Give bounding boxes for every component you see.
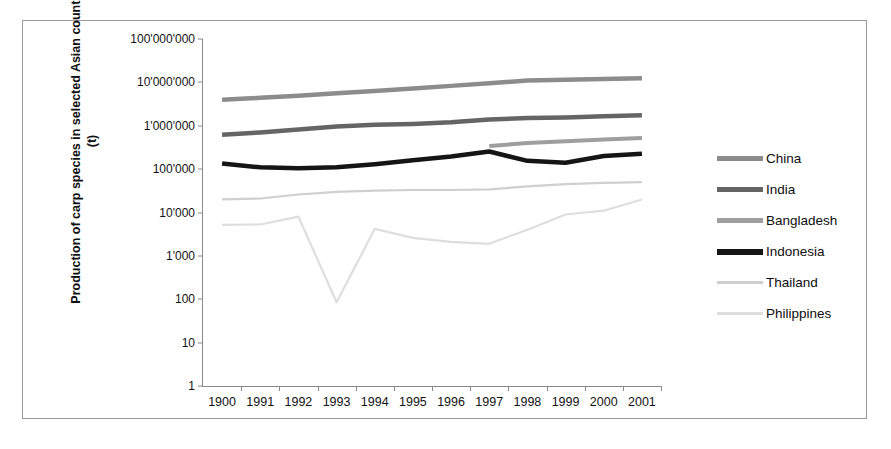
plot-area: 100'000'00010'000'0001'000'000100'00010'…: [202, 39, 661, 387]
legend-label: China: [766, 151, 801, 166]
legend-label: Philippines: [766, 306, 831, 321]
x-tick-label: 1993: [323, 386, 351, 409]
x-tick-label: 1999: [552, 386, 580, 409]
x-tick-mark: [318, 386, 319, 391]
legend-item-thailand[interactable]: Thailand: [717, 267, 891, 298]
legend-swatch-china: [717, 156, 763, 161]
x-tick-label: 1998: [514, 386, 542, 409]
figure-frame: Production of carp species in selected A…: [22, 20, 867, 419]
legend-swatch-thailand: [717, 281, 763, 284]
x-tick-mark: [394, 386, 395, 391]
y-tick-label: 10'000'000: [137, 75, 203, 89]
x-tick-mark: [623, 386, 624, 391]
x-tick-label: 1996: [437, 386, 465, 409]
x-tick-mark: [547, 386, 548, 391]
y-tick-label: 100'000'000: [130, 32, 203, 46]
series-line-indonesia: [222, 151, 642, 168]
x-tick-label: 1900: [208, 386, 236, 409]
x-tick-mark: [661, 386, 662, 391]
x-tick-label: 2000: [590, 386, 618, 409]
x-tick-mark: [356, 386, 357, 391]
legend-label: Thailand: [766, 275, 818, 290]
legend-label: Bangladesh: [766, 213, 837, 228]
series-line-india: [222, 115, 642, 135]
series-lines: [203, 39, 661, 386]
x-tick-label: 1995: [399, 386, 427, 409]
x-tick-label: 1997: [475, 386, 503, 409]
legend-label: India: [766, 182, 795, 197]
figure-caption: [26, 430, 546, 444]
y-tick-label: 10'000: [159, 206, 203, 220]
x-tick-mark: [432, 386, 433, 391]
x-tick-label: 1991: [246, 386, 274, 409]
legend-swatch-philippines: [717, 312, 763, 315]
y-tick-label: 1'000'000: [144, 119, 203, 133]
x-tick-label: 2001: [628, 386, 656, 409]
series-line-philippines: [222, 199, 642, 302]
x-tick-mark: [470, 386, 471, 391]
x-tick-mark: [585, 386, 586, 391]
series-line-china: [222, 78, 642, 99]
x-tick-label: 1992: [285, 386, 313, 409]
legend-swatch-indonesia: [717, 249, 763, 255]
legend-swatch-bangladesh: [717, 218, 763, 223]
legend-item-india[interactable]: India: [717, 174, 891, 205]
series-line-thailand: [222, 182, 642, 199]
legend-label: Indonesia: [766, 244, 825, 259]
y-tick-label: 100'000: [153, 162, 203, 176]
legend-item-philippines[interactable]: Philippines: [717, 298, 891, 329]
y-axis-title: Production of carp species in selected A…: [64, 0, 104, 306]
series-line-bangladesh: [489, 138, 642, 146]
x-tick-mark: [508, 386, 509, 391]
legend-item-bangladesh[interactable]: Bangladesh: [717, 205, 891, 236]
legend-swatch-india: [717, 187, 763, 192]
x-tick-mark: [241, 386, 242, 391]
figure-root: Production of carp species in selected A…: [0, 0, 891, 449]
x-tick-label: 1994: [361, 386, 389, 409]
x-tick-mark: [279, 386, 280, 391]
legend-item-china[interactable]: China: [717, 143, 891, 174]
legend: ChinaIndiaBangladeshIndonesiaThailandPhi…: [717, 143, 891, 329]
legend-item-indonesia[interactable]: Indonesia: [717, 236, 891, 267]
